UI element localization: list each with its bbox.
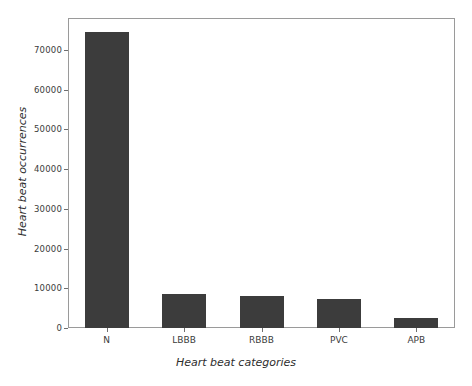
- x-axis-tick-label: RBBB: [222, 335, 302, 345]
- x-axis-tick-label: N: [67, 335, 147, 345]
- y-axis-tick-label: 0: [0, 322, 62, 334]
- x-axis-tick-mark: [107, 328, 108, 332]
- y-axis-tick-label-text: 20000: [2, 243, 62, 255]
- x-axis-tick-mark: [339, 328, 340, 332]
- x-axis-tick-label: LBBB: [144, 335, 224, 345]
- x-axis-title: Heart beat categories: [0, 356, 472, 369]
- x-axis-tick-label: PVC: [299, 335, 379, 345]
- x-axis-tick-mark: [262, 328, 263, 332]
- bar-chart-figure: 010000200003000040000500006000070000 NLB…: [0, 0, 472, 386]
- bar-n: [85, 32, 129, 328]
- bar-rbbb: [240, 296, 284, 328]
- y-axis-tick-label: 20000: [0, 243, 62, 255]
- y-axis-tick-label-text: 40000: [2, 163, 62, 175]
- x-axis-tick-mark: [184, 328, 185, 332]
- bar-apb: [394, 318, 438, 328]
- x-axis-tick-mark: [416, 328, 417, 332]
- y-axis-tick-label: 60000: [0, 84, 62, 96]
- y-axis-tick-label: 30000: [0, 203, 62, 215]
- x-axis-tick-label: APB: [376, 335, 456, 345]
- y-axis-tick-label-text: 0: [2, 322, 62, 334]
- bar-pvc: [317, 299, 361, 328]
- y-axis-tick-label: 40000: [0, 163, 62, 175]
- y-axis-tick-mark: [64, 328, 68, 329]
- y-axis-tick-label-text: 30000: [2, 203, 62, 215]
- y-axis-tick-label: 10000: [0, 282, 62, 294]
- y-axis-tick-label-text: 70000: [2, 44, 62, 56]
- y-axis-tick-label: 50000: [0, 123, 62, 135]
- bars-layer: [68, 18, 454, 328]
- y-axis-tick-label-text: 50000: [2, 123, 62, 135]
- y-axis-title: Heart beat occurrences: [16, 72, 29, 272]
- y-axis-tick-label-text: 60000: [2, 84, 62, 96]
- bar-lbbb: [162, 294, 206, 328]
- y-axis-tick-label-text: 10000: [2, 282, 62, 294]
- y-axis-tick-label: 70000: [0, 44, 62, 56]
